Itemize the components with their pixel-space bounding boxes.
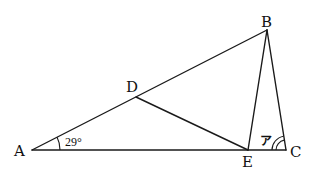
segment-AB xyxy=(32,30,267,150)
angle-label-C: ア xyxy=(260,134,272,148)
point-label-D: D xyxy=(126,78,138,96)
segment-DE xyxy=(136,97,248,150)
point-label-E: E xyxy=(242,153,253,171)
point-label-A: A xyxy=(13,142,25,160)
angle-arc-C-outer xyxy=(272,136,284,150)
geometry-figure: A B C D E 29° ア xyxy=(0,0,312,176)
angle-arc-C-inner xyxy=(276,140,284,150)
segment-BE xyxy=(248,30,267,150)
angle-label-A: 29° xyxy=(65,135,82,149)
point-label-B: B xyxy=(261,13,272,31)
point-label-C: C xyxy=(290,143,301,161)
segment-BC xyxy=(267,30,286,150)
angle-arc-A xyxy=(57,137,60,150)
